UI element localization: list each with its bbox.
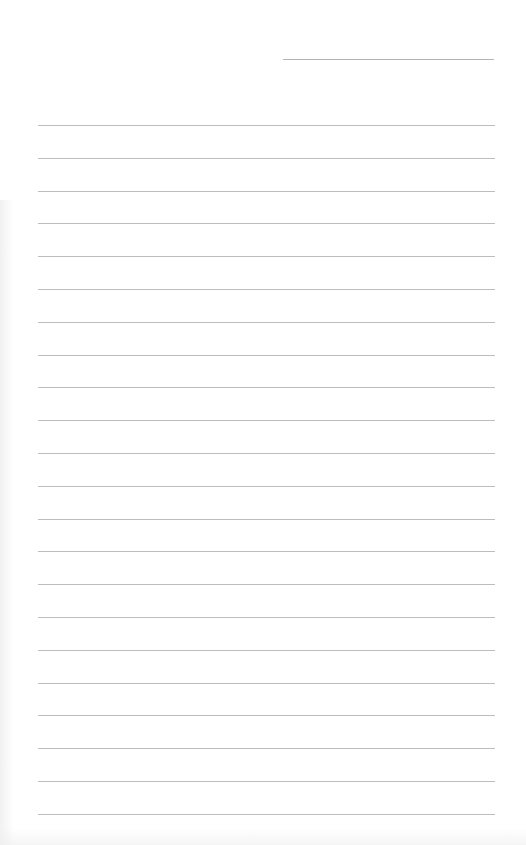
ruled-line — [38, 519, 495, 520]
scan-edge-shadow — [0, 200, 14, 845]
ruled-line — [38, 420, 495, 421]
ruled-line — [38, 191, 495, 192]
ruled-line — [38, 584, 495, 585]
ruled-line — [38, 814, 495, 815]
ruled-line — [38, 486, 495, 487]
ruled-line — [38, 683, 495, 684]
ruled-line — [38, 355, 495, 356]
ruled-line — [38, 617, 495, 618]
ruled-line — [38, 748, 495, 749]
ruled-line — [38, 158, 495, 159]
ruled-line — [38, 322, 495, 323]
bottom-bleed-through — [0, 828, 526, 845]
ruled-line — [38, 650, 495, 651]
ruled-line — [38, 551, 495, 552]
lined-paper-page — [0, 0, 526, 845]
ruled-line — [38, 289, 495, 290]
header-line — [283, 59, 494, 60]
ruled-line — [38, 715, 495, 716]
ruled-line — [38, 781, 495, 782]
ruled-line — [38, 223, 495, 224]
ruled-line — [38, 256, 495, 257]
ruled-line — [38, 387, 495, 388]
ruled-line — [38, 125, 495, 126]
ruled-line — [38, 453, 495, 454]
